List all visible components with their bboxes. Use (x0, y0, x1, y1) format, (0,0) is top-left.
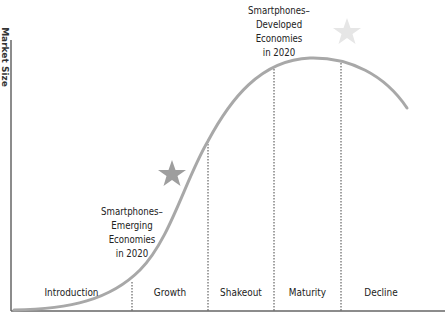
annotation-line: in 2020 (91, 246, 173, 260)
life-cycle-curve (14, 58, 407, 310)
annotation-line: Emerging (91, 218, 173, 232)
annotation-line: in 2020 (238, 45, 320, 59)
annotation-line: Developed (238, 17, 320, 31)
annotation-line: Economies (91, 232, 173, 246)
life-cycle-chart (0, 0, 445, 317)
annotation-line: Smartphones– (91, 204, 173, 218)
stage-introduction: Introduction (20, 286, 123, 298)
stage-maturity: Maturity (279, 286, 336, 298)
star-emerging-icon (158, 160, 186, 186)
annotation-line: Smartphones– (238, 3, 320, 17)
stage-shakeout: Shakeout (213, 286, 269, 298)
star-developed-icon (333, 18, 361, 44)
y-axis-label: Market Size (0, 22, 10, 92)
annotation-line: Economies (238, 31, 320, 45)
stage-growth: Growth (138, 286, 203, 298)
annotation-developed: Smartphones– Developed Economies in 2020 (238, 3, 320, 59)
annotation-emerging: Smartphones– Emerging Economies in 2020 (91, 204, 173, 260)
stage-decline: Decline (347, 286, 415, 298)
